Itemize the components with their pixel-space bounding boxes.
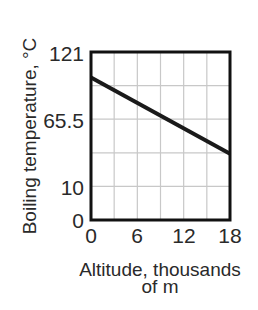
y-axis-label: Boiling temperature, °C — [19, 38, 40, 235]
y-tick-label-121: 121 — [49, 42, 84, 65]
x-tick-label-12: 12 — [172, 224, 195, 247]
x-axis-label-line-2: of m — [142, 276, 179, 297]
y-tick-label-0: 0 — [72, 209, 84, 232]
x-tick-label-6: 6 — [131, 224, 143, 247]
y-tick-label-10: 10 — [61, 176, 84, 199]
boiling-temperature-chart: 121 65.5 10 0 0 6 12 18 Altitude, thousa… — [0, 0, 258, 310]
grid-lines — [91, 52, 230, 220]
x-tick-label-18: 18 — [218, 224, 241, 247]
y-tick-label-65-5: 65.5 — [43, 109, 84, 132]
x-tick-label-0: 0 — [85, 224, 97, 247]
chart-canvas: 121 65.5 10 0 0 6 12 18 Altitude, thousa… — [0, 0, 258, 310]
